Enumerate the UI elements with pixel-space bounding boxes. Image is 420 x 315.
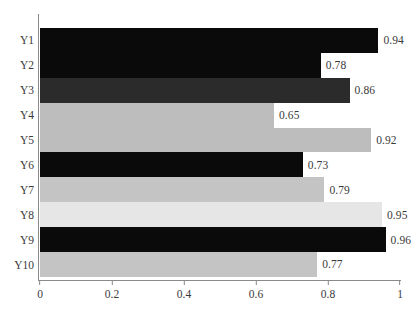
x-axis-tick-label: 0.2	[105, 288, 119, 300]
bar-row: 0.79	[40, 177, 400, 202]
y-axis-tick-label: Y10	[0, 259, 34, 271]
bar-value-label: 0.92	[371, 134, 397, 146]
y-axis-tick-label: Y5	[0, 134, 34, 146]
bar	[40, 128, 371, 153]
bar-value-label: 0.94	[378, 34, 404, 46]
bar-row: 0.94	[40, 28, 400, 53]
bar-row: 0.96	[40, 227, 400, 252]
bar-row: 0.77	[40, 252, 400, 277]
y-axis-tick-label: Y6	[0, 159, 34, 171]
x-axis-tick-mark	[184, 280, 185, 285]
bar-row: 0.95	[40, 202, 400, 227]
y-axis-tick-label: Y2	[0, 59, 34, 71]
bar	[40, 252, 317, 277]
y-axis-tick-label: Y4	[0, 109, 34, 121]
plot-area: 0.940.780.860.650.920.730.790.950.960.77	[40, 28, 400, 277]
y-axis-tick-label: Y1	[0, 34, 34, 46]
bar-value-label: 0.73	[303, 159, 329, 171]
y-axis-tick-label: Y3	[0, 84, 34, 96]
x-axis-tick-mark	[112, 280, 113, 285]
x-axis-tick-mark	[40, 280, 41, 285]
bar	[40, 103, 274, 128]
bar-value-label: 0.79	[324, 184, 350, 196]
bar	[40, 202, 382, 227]
bar-value-label: 0.78	[321, 59, 347, 71]
bar	[40, 78, 350, 103]
bar-chart: Y1Y2Y3Y4Y5Y6Y7Y8Y9Y10 0.940.780.860.650.…	[0, 0, 420, 315]
bar	[40, 177, 324, 202]
x-axis-ticks: 00.20.40.60.81	[40, 280, 400, 312]
bar	[40, 53, 321, 78]
y-axis-tick-label: Y7	[0, 184, 34, 196]
y-axis-tick-labels: Y1Y2Y3Y4Y5Y6Y7Y8Y9Y10	[0, 28, 34, 277]
x-axis-tick: 0.2	[105, 280, 119, 300]
bar	[40, 227, 386, 252]
x-axis-tick: 0	[37, 280, 43, 300]
bar	[40, 152, 303, 177]
bar-value-label: 0.86	[350, 84, 376, 96]
x-axis-tick-mark	[256, 280, 257, 285]
x-axis-tick: 0.8	[321, 280, 335, 300]
x-axis-tick: 0.6	[249, 280, 263, 300]
x-axis-tick-mark	[328, 280, 329, 285]
x-axis-tick-label: 1	[397, 288, 403, 300]
bar-value-label: 0.95	[382, 209, 408, 221]
x-axis-tick: 0.4	[177, 280, 191, 300]
y-axis-tick-label: Y9	[0, 234, 34, 246]
y-axis-line	[38, 14, 39, 280]
bar	[40, 28, 378, 53]
bar-value-label: 0.77	[317, 258, 343, 270]
x-axis-tick-mark	[400, 280, 401, 285]
bar-row: 0.92	[40, 128, 400, 153]
bar-row: 0.73	[40, 152, 400, 177]
bar-row: 0.78	[40, 53, 400, 78]
x-axis-tick-label: 0.4	[177, 288, 191, 300]
bar-row: 0.86	[40, 78, 400, 103]
y-axis-tick-label: Y8	[0, 209, 34, 221]
x-axis-tick-label: 0.8	[321, 288, 335, 300]
x-axis-tick: 1	[397, 280, 403, 300]
x-axis-tick-label: 0	[37, 288, 43, 300]
bar-row: 0.65	[40, 103, 400, 128]
bar-value-label: 0.65	[274, 109, 300, 121]
x-axis-tick-label: 0.6	[249, 288, 263, 300]
bar-value-label: 0.96	[386, 234, 412, 246]
